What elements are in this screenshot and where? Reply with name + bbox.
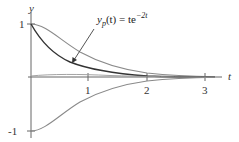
- arrowhead-icon: [72, 57, 77, 63]
- upper-solution-curve: [31, 24, 215, 77]
- solution-curves-chart: 1 2 3 1 -1 y t yp(t) = te−2t: [0, 0, 239, 142]
- x-tick-label-2: 2: [144, 84, 150, 96]
- x-tick-label-3: 3: [202, 84, 208, 96]
- annotation-label: yp(t) = te−2t: [96, 11, 148, 28]
- y-tick-label-1: 1: [19, 18, 25, 30]
- x-tick-label-1: 1: [85, 84, 91, 96]
- y-tick-label-neg1: -1: [8, 125, 17, 137]
- annotation-arrow-line: [74, 29, 94, 60]
- x-axis-label: t: [228, 70, 232, 82]
- y-axis-label: y: [28, 2, 34, 14]
- particular-solution-curve: [31, 24, 215, 77]
- lower-solution-curve: [31, 77, 215, 131]
